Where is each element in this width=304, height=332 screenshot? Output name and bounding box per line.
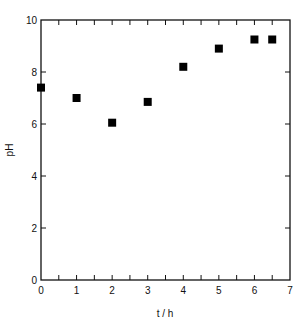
x-tick-label: 4 bbox=[181, 285, 187, 296]
x-axis-label: t / h bbox=[157, 308, 174, 319]
x-tick-label: 1 bbox=[74, 285, 80, 296]
x-tick-label: 0 bbox=[38, 285, 44, 296]
scatter-chart: 01234567 0246810 t / h pH bbox=[0, 0, 304, 332]
x-tick-label: 3 bbox=[145, 285, 151, 296]
y-axis-tick-labels: 0246810 bbox=[26, 15, 38, 286]
data-points bbox=[37, 36, 276, 127]
data-point-square bbox=[73, 94, 81, 102]
x-tick-label: 7 bbox=[287, 285, 293, 296]
data-point-square bbox=[37, 84, 45, 92]
plot-border bbox=[41, 20, 290, 280]
plot-frame bbox=[41, 20, 290, 280]
y-tick-label: 4 bbox=[31, 171, 37, 182]
y-tick-label: 6 bbox=[31, 119, 37, 130]
data-point-square bbox=[268, 36, 276, 44]
x-tick-label: 2 bbox=[109, 285, 115, 296]
y-tick-label: 8 bbox=[31, 67, 37, 78]
x-tick-label: 5 bbox=[216, 285, 222, 296]
data-point-square bbox=[179, 63, 187, 71]
data-point-square bbox=[144, 98, 152, 106]
data-point-square bbox=[250, 36, 258, 44]
x-axis-tick-labels: 01234567 bbox=[38, 285, 293, 296]
y-tick-label: 10 bbox=[26, 15, 38, 26]
x-tick-label: 6 bbox=[252, 285, 258, 296]
y-tick-label: 2 bbox=[31, 223, 37, 234]
data-point-square bbox=[215, 45, 223, 53]
y-axis-label: pH bbox=[4, 144, 15, 157]
y-tick-label: 0 bbox=[31, 275, 37, 286]
data-point-square bbox=[108, 119, 116, 127]
x-axis-ticks bbox=[59, 20, 272, 280]
